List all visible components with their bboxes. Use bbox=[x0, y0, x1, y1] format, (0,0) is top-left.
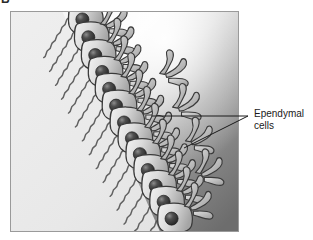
figure-root: B bbox=[0, 0, 313, 240]
illustration-panel bbox=[10, 11, 239, 232]
callout-label-line-1: Ependymal bbox=[254, 108, 312, 120]
callout-label-line-2: cells bbox=[254, 120, 312, 132]
callout-label: Ependymal cells bbox=[254, 108, 312, 131]
ependymal-illustration bbox=[11, 12, 238, 231]
panel-letter: B bbox=[1, 0, 10, 5]
